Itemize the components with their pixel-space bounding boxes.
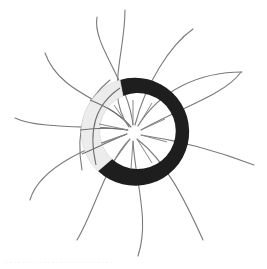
- spiral-arms: [15, 10, 254, 256]
- arm-9: [141, 72, 241, 130]
- arm-6: [133, 141, 143, 256]
- caption-text: . . . . . . . . . . . . . . . . . . . . …: [6, 257, 261, 265]
- arm-10: [138, 72, 242, 126]
- spiral-ring-illustration: [0, 0, 267, 269]
- arm-12: [117, 10, 129, 127]
